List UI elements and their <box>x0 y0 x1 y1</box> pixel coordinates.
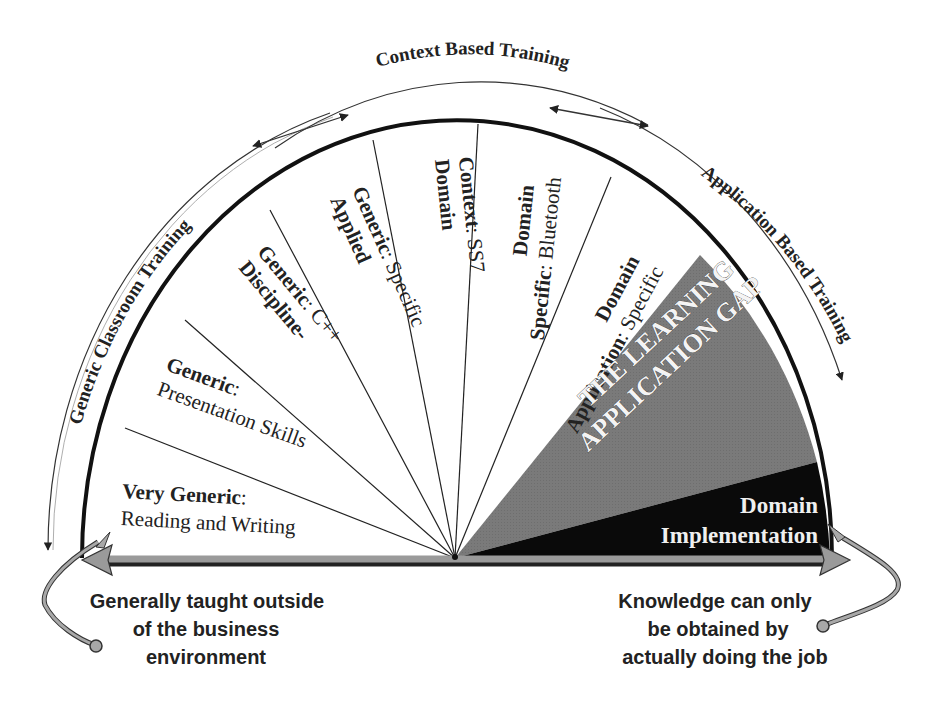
boundary-arrows <box>253 108 648 146</box>
note-right: Knowledge can only be obtained by actual… <box>618 590 827 668</box>
segment-discipline-generic: Discipline- Generic: C++ <box>234 240 348 363</box>
svg-text:Knowledge can only: Knowledge can only <box>618 590 812 612</box>
segment-generic: Generic: Presentation Skills <box>154 352 319 453</box>
arc-title-context-based: Context Based Training <box>373 37 573 72</box>
svg-text:Implementation: Implementation <box>661 523 818 548</box>
svg-text:Reading and Writing: Reading and Writing <box>120 506 296 539</box>
segment-applied-generic: Applied Generic: Specific <box>325 183 430 341</box>
segment-domain-specific: Domain Specific: Bluetooth <box>499 173 566 342</box>
callout-connector-right <box>817 524 898 632</box>
hub-point <box>452 554 458 560</box>
svg-text:of the business: of the business <box>133 618 280 640</box>
learning-gap-diagram: Generic Classroom Training Context Based… <box>0 0 929 701</box>
svg-text:Very Generic:: Very Generic: <box>122 479 248 509</box>
segment-domain-context: Domain Context: SS7 <box>430 156 490 276</box>
segment-very-generic: Very Generic: Reading and Writing <box>120 479 298 539</box>
svg-text:Generally taught outside: Generally taught outside <box>90 590 324 612</box>
svg-text:be obtained by: be obtained by <box>647 618 789 640</box>
svg-text:Domain: Domain <box>740 493 818 518</box>
note-left: Generally taught outside of the business… <box>90 590 324 668</box>
svg-text:actually doing the job: actually doing the job <box>622 646 828 668</box>
svg-text:environment: environment <box>146 646 266 668</box>
